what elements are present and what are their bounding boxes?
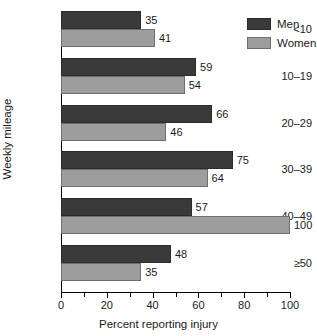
bar-value-label: 57 <box>192 198 208 216</box>
bar-women <box>61 29 155 47</box>
bar-women <box>61 76 185 94</box>
x-axis-minor-tick <box>176 292 177 297</box>
y-axis-title: Weekly mileage <box>1 79 13 199</box>
x-axis-minor-tick <box>130 292 131 297</box>
x-axis-minor-tick <box>267 292 268 297</box>
y-axis-category-label: <10 <box>261 23 317 35</box>
bar-value-label: 48 <box>171 245 187 263</box>
bar-women <box>61 169 208 187</box>
x-axis-tick-label: 80 <box>224 299 264 311</box>
bar-value-label: 75 <box>233 151 249 169</box>
bar-women <box>61 263 141 281</box>
legend-swatch-women <box>247 37 271 49</box>
bar-chart: Men Women 020406080100<10354110–19595420… <box>0 0 317 336</box>
y-axis-category-label: ≥50 <box>261 257 317 269</box>
x-axis-tick-label: 20 <box>87 299 127 311</box>
bar-value-label: 41 <box>155 29 171 47</box>
bar-men <box>61 58 196 76</box>
y-axis-category-label: 30–39 <box>261 163 317 175</box>
bar-value-label: 59 <box>196 58 212 76</box>
x-axis-tick-label: 100 <box>270 299 310 311</box>
x-axis-minor-tick <box>84 292 85 297</box>
x-axis-title: Percent reporting injury <box>0 318 317 330</box>
x-axis-tick <box>198 292 199 298</box>
bar-value-label: 100 <box>290 216 312 234</box>
y-axis-category-label: 20–29 <box>261 117 317 129</box>
bar-value-label: 35 <box>141 11 157 29</box>
x-axis-tick-label: 40 <box>133 299 173 311</box>
bar-value-label: 64 <box>208 169 224 187</box>
bar-men <box>61 151 233 169</box>
x-axis-tick-label: 0 <box>41 299 81 311</box>
bar-men <box>61 198 192 216</box>
x-axis-tick <box>153 292 154 298</box>
x-axis-minor-tick <box>221 292 222 297</box>
x-axis-tick <box>61 292 62 298</box>
bar-value-label: 54 <box>185 76 201 94</box>
bar-women <box>61 216 290 234</box>
legend-label-women: Women <box>277 35 316 51</box>
bar-women <box>61 123 166 141</box>
x-axis-tick <box>244 292 245 298</box>
x-axis-tick <box>290 292 291 298</box>
bar-value-label: 66 <box>212 105 228 123</box>
bar-value-label: 46 <box>166 123 182 141</box>
bar-men <box>61 11 141 29</box>
x-axis-tick-label: 60 <box>178 299 218 311</box>
x-axis-tick <box>107 292 108 298</box>
bar-value-label: 35 <box>141 263 157 281</box>
bar-men <box>61 245 171 263</box>
bar-men <box>61 105 212 123</box>
y-axis-category-label: 10–19 <box>261 70 317 82</box>
